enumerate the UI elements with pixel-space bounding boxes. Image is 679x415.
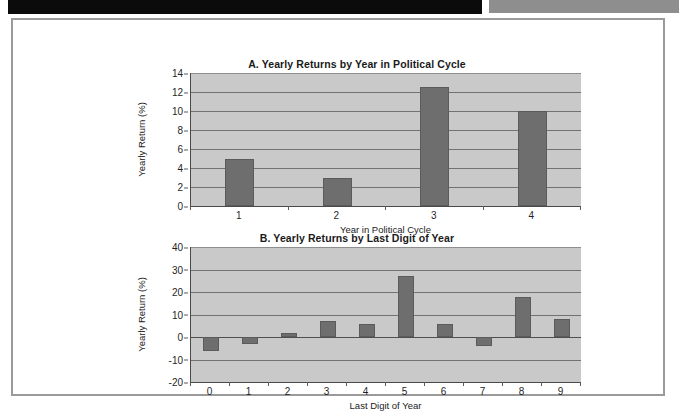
- x-axis-tick-mark: [288, 206, 289, 210]
- y-tick-label: 8: [177, 125, 183, 136]
- x-tick-label: 4: [363, 386, 369, 397]
- gridline: [191, 270, 581, 271]
- bar-2: [323, 178, 352, 207]
- chart-a-y-tick-labels: 02468101214: [150, 73, 188, 206]
- x-tick-label: 1: [236, 210, 242, 221]
- bar-9: [554, 319, 570, 337]
- bar-8: [515, 297, 531, 338]
- bar-3: [320, 321, 336, 337]
- x-axis-tick-mark: [229, 382, 230, 386]
- x-axis-tick-mark: [268, 382, 269, 386]
- bar-1: [242, 337, 258, 344]
- x-axis-tick-mark: [385, 206, 386, 210]
- x-axis-tick-mark: [424, 382, 425, 386]
- x-axis-tick-mark: [463, 382, 464, 386]
- x-tick-label: 7: [480, 386, 486, 397]
- y-tick-label: 4: [177, 163, 183, 174]
- chart-b-plot-top-edge: [191, 247, 581, 248]
- x-axis-tick-mark: [190, 382, 191, 386]
- chart-a-x-tick-labels: 1234: [190, 206, 581, 222]
- chart-a-title: A. Yearly Returns by Year in Political C…: [133, 58, 581, 73]
- chart-b-x-axis-label: Last Digit of Year: [190, 400, 581, 411]
- y-tick-label: 6: [177, 144, 183, 155]
- gridline: [191, 360, 581, 361]
- x-axis-tick-mark: [385, 382, 386, 386]
- bar-6: [437, 324, 453, 338]
- x-axis-tick-mark: [307, 382, 308, 386]
- chart-a-container: A. Yearly Returns by Year in Political C…: [133, 58, 581, 226]
- bar-7: [476, 337, 492, 346]
- x-axis-tick-mark: [483, 206, 484, 210]
- chart-b-y-axis-title: Yearly Return (%): [133, 247, 150, 382]
- scan-artifact-gray-strip: [489, 0, 679, 13]
- chart-b-y-tick-labels: -20-10010203040: [150, 247, 188, 382]
- y-tick-label: 12: [172, 87, 183, 98]
- x-tick-label: 3: [324, 386, 330, 397]
- chart-b-x-tick-labels: 0123456789: [190, 382, 581, 398]
- chart-b-plot-area: [190, 247, 581, 382]
- chart-a-y-axis-title: Yearly Return (%): [133, 73, 150, 206]
- bar-0: [203, 337, 219, 351]
- x-tick-label: 5: [402, 386, 408, 397]
- x-tick-label: 6: [441, 386, 447, 397]
- bar-2: [281, 333, 297, 338]
- scan-artifact-dark-strip: [8, 0, 482, 14]
- chart-b-container: B. Yearly Returns by Last Digit of Year …: [133, 232, 581, 404]
- y-tick-label: 14: [172, 68, 183, 79]
- x-tick-label: 3: [431, 210, 437, 221]
- y-tick-label: -10: [169, 354, 183, 365]
- chart-a-plot-area: [190, 73, 581, 206]
- chart-b-y-axis-label: Yearly Return (%): [136, 277, 147, 352]
- x-axis-tick-mark: [580, 206, 581, 210]
- y-tick-label: 40: [172, 242, 183, 253]
- bar-3: [420, 87, 449, 206]
- scan-artifact-band: [0, 0, 679, 16]
- chart-a-y-axis-label: Yearly Return (%): [136, 102, 147, 177]
- x-tick-label: 8: [519, 386, 525, 397]
- y-tick-label: 2: [177, 182, 183, 193]
- x-tick-label: 0: [207, 386, 213, 397]
- bar-4: [518, 111, 547, 206]
- x-tick-label: 9: [558, 386, 564, 397]
- chart-b-plot-body: Yearly Return (%) -20-10010203040: [133, 247, 581, 382]
- x-tick-label: 2: [333, 210, 339, 221]
- bar-1: [225, 159, 254, 207]
- chart-a-plot-body: Yearly Return (%) 02468101214: [133, 73, 581, 206]
- gridline: [191, 92, 581, 93]
- chart-a-plot-top-edge: [191, 73, 581, 74]
- x-tick-label: 1: [246, 386, 252, 397]
- y-tick-label: 0: [177, 332, 183, 343]
- y-tick-label: 10: [172, 309, 183, 320]
- x-axis-tick-mark: [346, 382, 347, 386]
- y-tick-label: 20: [172, 287, 183, 298]
- x-tick-label: 4: [528, 210, 534, 221]
- x-axis-tick-mark: [541, 382, 542, 386]
- document-page-frame: A. Yearly Returns by Year in Political C…: [11, 18, 665, 396]
- x-axis-tick-mark: [580, 382, 581, 386]
- chart-b-title: B. Yearly Returns by Last Digit of Year: [133, 232, 581, 247]
- x-tick-label: 2: [285, 386, 291, 397]
- y-tick-label: 10: [172, 106, 183, 117]
- x-axis-tick-mark: [502, 382, 503, 386]
- y-tick-label: 30: [172, 264, 183, 275]
- bar-4: [359, 324, 375, 338]
- gridline: [191, 292, 581, 293]
- x-axis-tick-mark: [190, 206, 191, 210]
- bar-5: [398, 276, 414, 337]
